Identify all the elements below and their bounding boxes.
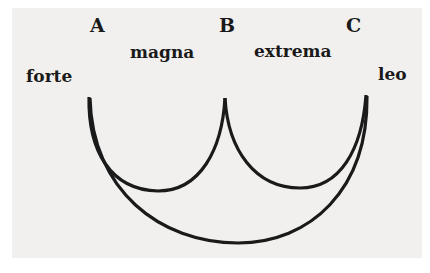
arc-diagram <box>0 0 430 273</box>
arc-a-b <box>89 97 225 191</box>
label-b: B <box>219 14 235 36</box>
label-forte: forte <box>26 66 72 86</box>
label-extrema: extrema <box>254 41 332 61</box>
label-c: C <box>346 14 361 36</box>
label-a: A <box>90 14 105 36</box>
label-magna: magna <box>130 42 194 62</box>
arc-b-c <box>225 95 366 188</box>
label-leo: leo <box>378 64 407 84</box>
